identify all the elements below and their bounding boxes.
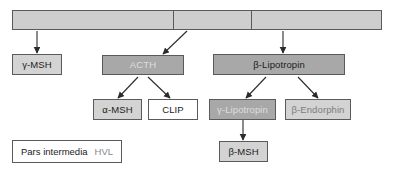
legend-box: Pars intermedia HVL: [12, 140, 122, 163]
node-beta-endorphin[interactable]: β-Endorphin: [285, 99, 351, 120]
node-gamma-msh[interactable]: γ-MSH: [12, 54, 62, 75]
precursor-bar-divider-2: [251, 11, 252, 29]
arrow-bar-to-acth: [163, 31, 187, 54]
arrow-lipotropin-to-beta-endorphin: [298, 77, 318, 98]
node-gamma-lipotropin-label: γ-Lipotropin: [217, 105, 268, 115]
pomc-processing-diagram: γ-MSH ACTH β-Lipotropin α-MSH CLIP γ-Lip…: [0, 0, 393, 182]
node-beta-lipotropin[interactable]: β-Lipotropin: [213, 54, 345, 75]
node-gamma-msh-label: γ-MSH: [22, 60, 52, 70]
node-beta-msh-label: β-MSH: [228, 147, 258, 157]
arrow-acth-to-clip: [148, 77, 170, 98]
legend-hvl-label: HVL: [95, 147, 113, 157]
node-clip-label: CLIP: [162, 105, 184, 115]
node-acth[interactable]: ACTH: [102, 55, 184, 75]
pomc-precursor-bar: [12, 10, 382, 30]
node-beta-endorphin-label: β-Endorphin: [291, 105, 344, 115]
node-beta-msh[interactable]: β-MSH: [219, 141, 268, 162]
node-alpha-msh[interactable]: α-MSH: [93, 99, 142, 120]
legend-pars-intermedia-label: Pars intermedia: [21, 147, 88, 157]
arrow-lipotropin-to-gamma-lipotropin: [246, 77, 266, 98]
node-beta-lipotropin-label: β-Lipotropin: [253, 60, 305, 70]
node-clip[interactable]: CLIP: [148, 99, 198, 120]
node-acth-label: ACTH: [130, 60, 156, 70]
node-alpha-msh-label: α-MSH: [102, 105, 132, 115]
node-gamma-lipotropin[interactable]: γ-Lipotropin: [209, 99, 276, 120]
arrow-acth-to-alpha-msh: [118, 77, 138, 98]
precursor-bar-divider-1: [173, 11, 174, 29]
